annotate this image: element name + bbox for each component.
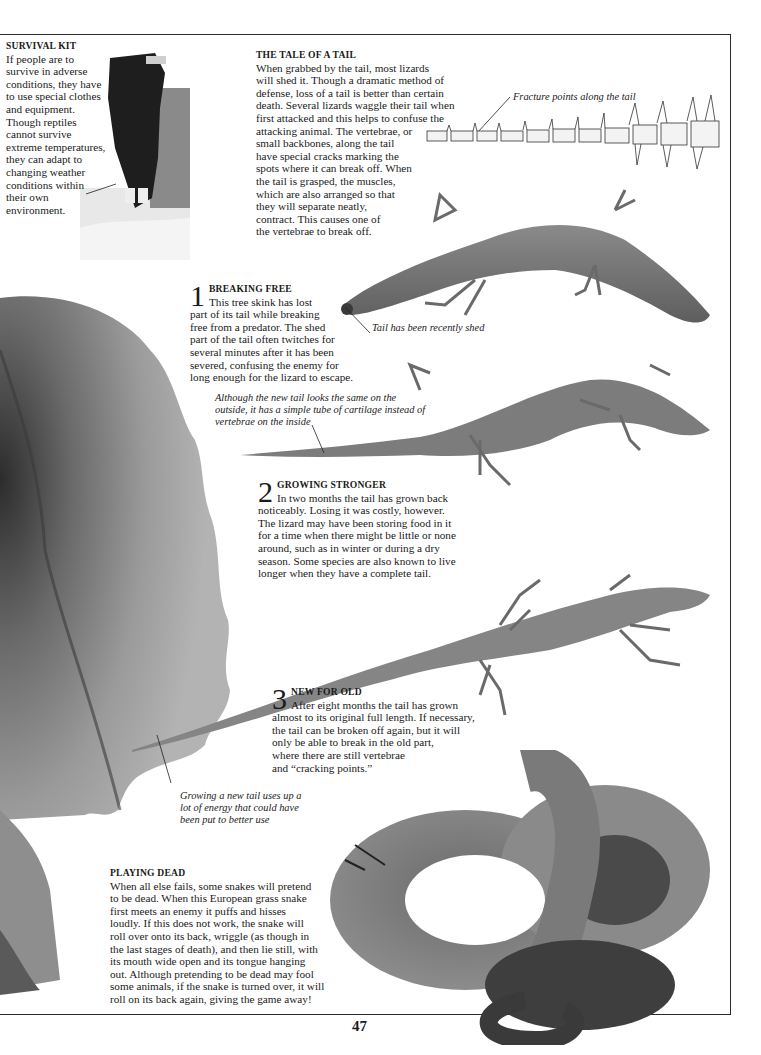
text-line: noticeably. Losing it was costly, howeve… xyxy=(258,504,508,517)
text-line: out. Although pretending to be dead may … xyxy=(110,968,345,981)
text-line: their own xyxy=(6,191,136,204)
text-line: cannot survive xyxy=(6,128,136,141)
text-line: almost to its original full length. If n… xyxy=(272,711,492,724)
tail-vertebrae-diagram xyxy=(425,95,725,170)
right-rule xyxy=(730,34,731,1015)
text-line: extreme temperatures, xyxy=(6,141,136,154)
text-line: its mouth wide open and its tongue hangi… xyxy=(110,955,345,968)
text-line: for a time when there might be little or… xyxy=(258,529,508,542)
text-line: If people are to xyxy=(6,53,136,66)
text-line: loudly. If this does not work, the snake… xyxy=(110,917,345,930)
text-line: The lizard may have been storing food in… xyxy=(258,517,508,530)
text-line: changing weather xyxy=(6,166,136,179)
playing-dead-section: PLAYING DEAD When all else fails, some s… xyxy=(110,867,345,1006)
text-line: they can adapt to xyxy=(6,153,136,166)
new-for-old-heading: NEW FOR OLD xyxy=(272,686,492,699)
text-line: part of its tail while breaking xyxy=(190,308,370,321)
tail-shed-caption: Tail has been recently shed xyxy=(372,322,484,334)
text-line: Though reptiles xyxy=(6,116,136,129)
text-line: When grabbed by the tail, most lizards xyxy=(256,62,486,75)
text-line: the last stages of death), and then lie … xyxy=(110,943,345,956)
step-number-1: 1 xyxy=(190,284,205,308)
text-line: In two months the tail has grown back xyxy=(258,492,508,505)
caption-line: Growing a new tail uses up a xyxy=(180,790,330,802)
growing-stronger-heading: GROWING STRONGER xyxy=(258,479,508,492)
text-line: some animals, if the snake is turned ove… xyxy=(110,980,345,993)
step-number-2: 2 xyxy=(258,480,273,504)
text-line: roll over onto its back, wriggle (as tho… xyxy=(110,930,345,943)
leader-line-energy xyxy=(155,735,175,785)
caption-line: lot of energy that could have xyxy=(180,802,330,814)
text-line: to use special clothes xyxy=(6,90,136,103)
text-line: only be able to break in the old part, xyxy=(272,736,492,749)
text-line: conditions within xyxy=(6,179,136,192)
text-line: part of the tail often twitches for xyxy=(190,333,370,346)
text-line: survive in adverse xyxy=(6,65,136,78)
step-number-3: 3 xyxy=(272,687,287,711)
survival-kit-section: SURVIVAL KIT If people are to survive in… xyxy=(6,40,136,216)
energy-caption: Growing a new tail uses up a lot of ener… xyxy=(180,790,330,826)
survival-kit-heading: SURVIVAL KIT xyxy=(6,40,136,53)
leader-line-cartilage xyxy=(310,425,330,455)
text-line: and equipment. xyxy=(6,103,136,116)
skink-shed-tail-image xyxy=(335,185,720,335)
grass-snake-image xyxy=(325,750,725,1045)
text-line: free from a predator. The shed xyxy=(190,321,370,334)
text-line: season. Some species are also known to l… xyxy=(258,555,508,568)
text-line: first meets an enemy it puffs and hisses xyxy=(110,905,345,918)
growing-stronger-section: 2 GROWING STRONGER In two months the tai… xyxy=(258,479,508,580)
text-line: This tree skink has lost xyxy=(190,296,370,309)
text-line: around, such as in winter or during a dr… xyxy=(258,542,508,555)
page-number: 47 xyxy=(352,1018,367,1035)
breaking-free-heading: BREAKING FREE xyxy=(190,283,370,296)
caption-line: been put to better use xyxy=(180,814,330,826)
text-line: the tail can be broken off again, but it… xyxy=(272,724,492,737)
text-line: roll on its back again, giving the game … xyxy=(110,993,345,1006)
text-line: After eight months the tail has grown xyxy=(272,699,492,712)
playing-dead-heading: PLAYING DEAD xyxy=(110,867,345,880)
text-line: will shed it. Though a dramatic method o… xyxy=(256,74,486,87)
top-rule xyxy=(0,34,731,35)
text-line: environment. xyxy=(6,204,136,217)
text-line: to be dead. When this European grass sna… xyxy=(110,892,345,905)
text-line: conditions, they have xyxy=(6,78,136,91)
tale-of-a-tail-heading: THE TALE OF A TAIL xyxy=(256,49,486,62)
text-line: When all else fails, some snakes will pr… xyxy=(110,880,345,893)
